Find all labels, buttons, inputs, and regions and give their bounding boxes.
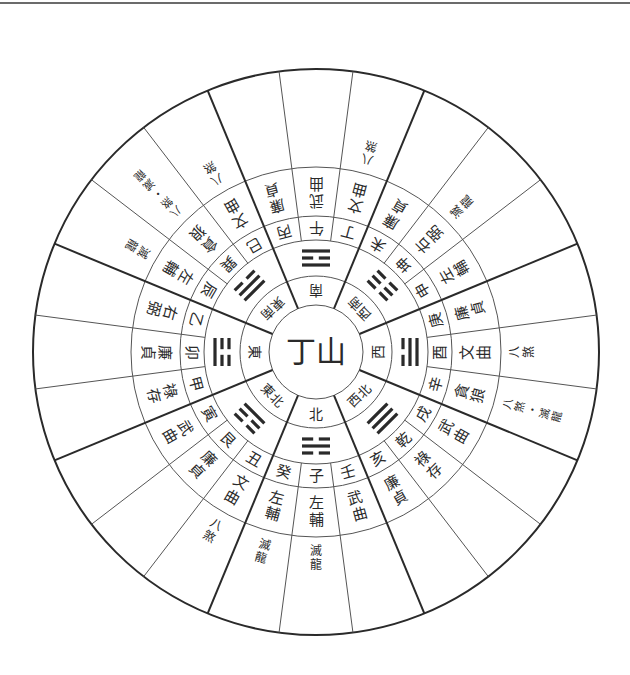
mountain-label: 癸 [274, 461, 293, 482]
mountain-label: 巳 [243, 233, 265, 256]
outer-label: 滅龍 [448, 192, 476, 220]
mountain-label: 辰 [197, 279, 220, 301]
mountain-label: 亥 [367, 448, 389, 471]
svg-text:龍: 龍 [310, 557, 322, 572]
direction-label: 南 [309, 283, 323, 299]
outer-label: 八煞 [201, 159, 225, 189]
mountain-label: 庚 [425, 310, 446, 329]
outer-label: 八煞 [201, 515, 225, 545]
center-label: 丁山 [286, 334, 346, 369]
star-label: 廉貞 [381, 195, 412, 233]
outer-label: 八煞 [360, 138, 379, 168]
mountain-label: 甲 [186, 375, 207, 394]
svg-text:龍: 龍 [253, 548, 268, 566]
sub-sector-line [427, 315, 597, 337]
svg-text:貞: 貞 [468, 299, 489, 318]
svg-text:輔: 輔 [309, 511, 324, 529]
svg-text:文: 文 [458, 345, 476, 360]
outer-label: 八煞・滅龍 [131, 167, 184, 220]
mountain-label: 乙 [186, 310, 207, 329]
mountain-label: 戌 [412, 403, 435, 425]
outer-label: 滅龍 [123, 237, 153, 261]
svg-text:輔: 輔 [263, 504, 282, 525]
svg-text:曲: 曲 [350, 504, 369, 525]
star-label: 文曲 [458, 345, 493, 360]
sub-sector-line [331, 71, 353, 241]
direction-label: 西 [370, 345, 386, 359]
mountain-label: 午 [309, 219, 324, 237]
svg-text:存: 存 [143, 386, 164, 405]
main-sector-line [334, 395, 424, 613]
star-label: 右弼 [411, 221, 447, 257]
sub-sector-line [279, 71, 301, 241]
outer-label: 滅龍 [310, 544, 322, 572]
star-label: 文曲 [346, 179, 370, 217]
mountain-label: 丙 [274, 222, 293, 243]
sub-sector-line [35, 315, 205, 337]
direction-label: 北 [309, 406, 323, 422]
star-label: 廉貞 [263, 179, 287, 217]
trigram-離-icon [302, 249, 330, 266]
star-label: 廉貞 [139, 345, 174, 360]
outer-label: 滅龍 [253, 536, 272, 566]
star-label: 武曲 [309, 175, 324, 210]
star-label: 廉貞 [451, 299, 489, 323]
star-label: 左輔 [309, 494, 324, 529]
main-sector-line [208, 395, 298, 613]
star-label: 武曲 [346, 487, 370, 525]
svg-text:貞: 貞 [139, 345, 157, 360]
sub-sector-line [35, 367, 205, 389]
star-label: 武曲 [159, 417, 197, 448]
svg-text:狼: 狼 [468, 386, 489, 405]
star-label: 貪狼 [185, 221, 221, 257]
star-label: 左輔 [435, 257, 473, 288]
sub-sector-line [279, 463, 301, 633]
svg-text:曲: 曲 [309, 175, 324, 193]
mountain-label: 子 [309, 467, 324, 485]
star-label: 祿存 [143, 382, 181, 406]
trigram-坎-icon [302, 437, 330, 454]
svg-text:煞: 煞 [363, 138, 378, 155]
mountain-label: 卯 [183, 345, 201, 360]
svg-text:左: 左 [309, 494, 324, 512]
direction-label: 東 [247, 345, 263, 359]
main-sector-line [334, 91, 424, 309]
main-sector-line [359, 244, 577, 334]
mountain-label: 丑 [243, 448, 265, 471]
svg-text:武: 武 [309, 192, 324, 210]
trigram-震-icon [213, 338, 230, 366]
trigram-坤-icon [366, 270, 398, 302]
outer-label: 八煞・滅龍 [501, 397, 565, 424]
compass-wheel: 午武曲丁文曲八煞未廉貞坤右弼滅龍申左輔庚廉貞酉文曲八煞辛貪狼八煞・滅龍戌武曲乾祿… [0, 0, 630, 675]
main-sector-line [55, 244, 273, 334]
star-label: 文曲 [221, 471, 252, 509]
star-label: 貪狼 [451, 382, 489, 406]
svg-text:八: 八 [508, 346, 522, 358]
svg-text:廉: 廉 [156, 345, 174, 360]
star-label: 廉貞 [381, 471, 412, 509]
star-label: 右弼 [143, 299, 181, 323]
mountain-label: 寅 [197, 403, 220, 425]
trigram-乾-icon [366, 402, 398, 434]
star-label: 廉貞 [185, 447, 221, 483]
star-label: 文曲 [221, 195, 252, 233]
trigram-巽-icon [234, 270, 266, 302]
mountain-label: 未 [367, 233, 389, 256]
mountain-label: 壬 [339, 461, 358, 482]
svg-text:曲: 曲 [350, 179, 369, 200]
star-label: 武曲 [435, 417, 473, 448]
svg-text:煞: 煞 [522, 346, 536, 358]
mountain-label: 酉 [431, 345, 449, 360]
sub-sector-line [331, 463, 353, 633]
outer-label: 八煞 [508, 346, 536, 358]
mountain-label: 丁 [339, 222, 358, 243]
trigram-兌-icon [401, 338, 418, 366]
sub-sector-line [427, 367, 597, 389]
star-label: 左輔 [263, 487, 287, 525]
star-label: 祿存 [411, 447, 447, 483]
svg-text:弼: 弼 [143, 299, 164, 318]
star-label: 左輔 [159, 257, 197, 288]
trigram-艮-icon [234, 402, 266, 434]
svg-text:曲: 曲 [475, 345, 493, 360]
mountain-label: 辛 [425, 375, 446, 394]
